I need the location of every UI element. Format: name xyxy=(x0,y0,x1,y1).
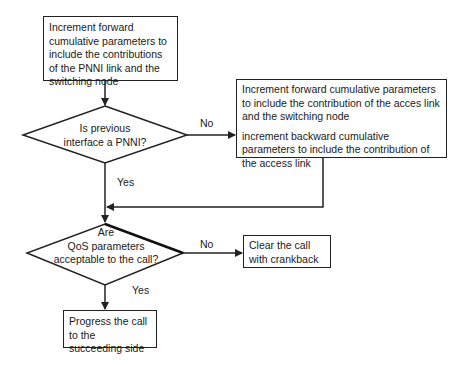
process-increment-pnni: Increment forward cumulative parameters … xyxy=(43,16,178,81)
process-increment-access: Increment forward cumulative parameters … xyxy=(236,79,447,158)
process-progress-call: Progress the call to the succeeding side xyxy=(63,310,157,348)
decision-line: QoS parameters xyxy=(50,240,162,254)
decision-text-pnni: Is previous interface a PNNI? xyxy=(45,122,165,149)
process-text: increment backward cumulative parameters… xyxy=(242,130,441,171)
decision-line: Are xyxy=(50,226,162,240)
decision-line: interface a PNNI? xyxy=(45,136,165,150)
decision-line: Is previous xyxy=(45,122,165,136)
process-text: Clear the call with crankback xyxy=(249,239,325,266)
decision-text-qos: Are QoS parameters acceptable to the cal… xyxy=(50,226,162,267)
process-clear-call: Clear the call with crankback xyxy=(243,235,331,268)
edge-label-pnni-no: No xyxy=(200,117,213,129)
process-text: Progress the call to the succeeding side xyxy=(69,315,151,356)
edge-label-qos-no: No xyxy=(200,238,213,250)
process-text: Increment forward cumulative parameters … xyxy=(242,83,441,124)
edge-label-pnni-yes: Yes xyxy=(117,176,134,188)
process-text: Increment forward cumulative parameters … xyxy=(49,21,172,89)
decision-line: acceptable to the call? xyxy=(50,253,162,267)
edge-label-qos-yes: Yes xyxy=(132,284,149,296)
